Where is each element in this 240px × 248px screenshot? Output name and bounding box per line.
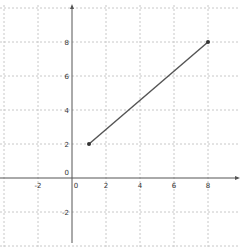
x-tick-label: 4 — [138, 182, 143, 190]
axes — [0, 4, 240, 243]
y-axis-arrow-icon — [70, 4, 74, 9]
y-tick-label: -2 — [62, 209, 69, 217]
y-tick-label: 8 — [65, 39, 69, 47]
y-tick-label: 2 — [65, 141, 69, 149]
x-tick-label: 2 — [104, 182, 108, 190]
x-tick-label: 6 — [172, 182, 177, 190]
y-tick-label: 4 — [65, 107, 70, 115]
x-tick-label: -2 — [35, 182, 42, 190]
x-tick-label: 8 — [206, 182, 210, 190]
grid-lines — [0, 5, 240, 248]
data-point — [206, 40, 210, 44]
data-point — [87, 142, 91, 146]
data-series — [87, 40, 210, 146]
y-tick-label: 6 — [65, 73, 70, 81]
coordinate-plane: -202468-224680 — [0, 0, 240, 248]
line-segment — [89, 42, 208, 144]
x-tick-label: 0 — [74, 182, 78, 190]
tick-labels: -202468-224680 — [35, 39, 211, 217]
x-axis-arrow-icon — [235, 176, 240, 180]
origin-label: 0 — [65, 169, 69, 177]
